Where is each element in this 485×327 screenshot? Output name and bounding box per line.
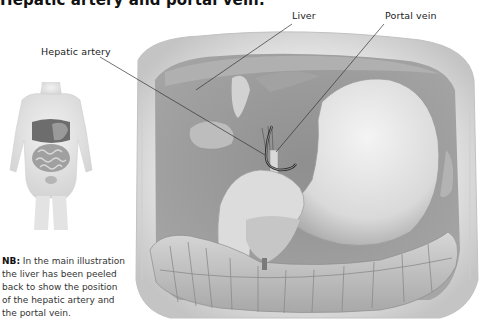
note-prefix: NB:: [2, 256, 20, 266]
note-caption: NB: In the main illustration the liver h…: [2, 255, 127, 320]
main-abdomen-illustration: [136, 32, 478, 318]
label-hepatic-artery: Hepatic artery: [41, 46, 111, 57]
inset-body-figure: [10, 82, 92, 230]
note-text: In the main illustration the liver has b…: [2, 256, 125, 318]
label-portal-vein: Portal vein: [385, 10, 437, 21]
label-liver: Liver: [292, 10, 316, 21]
